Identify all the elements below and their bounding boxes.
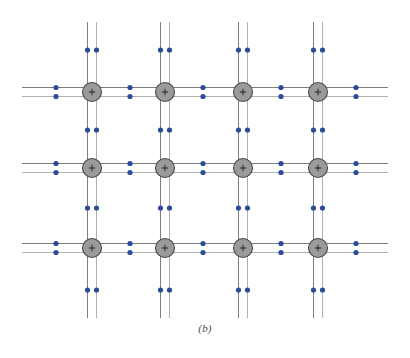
- electron-v-0-3-0: [85, 287, 90, 292]
- figure-caption: (b): [0, 322, 410, 334]
- electron-v-2-1-0: [236, 127, 241, 132]
- electron-h-0-2-0: [200, 85, 205, 90]
- ion-core-1-1: +: [156, 159, 175, 178]
- ion-core-1-0: +: [83, 159, 102, 178]
- electron-h-2-4-1: [353, 250, 358, 255]
- electron-h-1-0-0: [53, 161, 58, 166]
- electron-h-1-3-0: [278, 161, 283, 166]
- electron-h-0-2-1: [200, 94, 205, 99]
- electron-v-1-1-0: [158, 127, 163, 132]
- electron-h-1-3-1: [278, 170, 283, 175]
- electron-h-1-1-0: [127, 161, 132, 166]
- electron-v-3-0-1: [320, 47, 325, 52]
- electron-v-3-3-1: [320, 287, 325, 292]
- electron-h-2-0-1: [53, 250, 58, 255]
- electron-v-3-2-1: [320, 205, 325, 210]
- electron-h-1-4-1: [353, 170, 358, 175]
- electron-v-2-1-1: [245, 127, 250, 132]
- ion-cores-layer: ++++++++++++: [83, 83, 328, 258]
- electron-h-1-2-1: [200, 170, 205, 175]
- electron-h-0-1-1: [127, 94, 132, 99]
- ion-core-1-3: +: [309, 159, 328, 178]
- electron-h-1-1-1: [127, 170, 132, 175]
- electron-v-1-0-1: [167, 47, 172, 52]
- electron-h-0-1-0: [127, 85, 132, 90]
- electron-v-0-0-0: [85, 47, 90, 52]
- electron-h-0-0-0: [53, 85, 58, 90]
- electron-h-2-3-1: [278, 250, 283, 255]
- electron-h-2-3-0: [278, 241, 283, 246]
- electron-v-1-3-0: [158, 287, 163, 292]
- electron-v-3-1-0: [311, 127, 316, 132]
- lattice-figure: ++++++++++++ (b): [0, 0, 410, 358]
- electron-h-0-0-1: [53, 94, 58, 99]
- electron-v-3-1-1: [320, 127, 325, 132]
- electron-v-1-1-1: [167, 127, 172, 132]
- electron-v-0-1-0: [85, 127, 90, 132]
- electron-v-1-3-1: [167, 287, 172, 292]
- electron-h-0-3-1: [278, 94, 283, 99]
- ion-core-0-2: +: [234, 83, 253, 102]
- electron-h-2-2-0: [200, 241, 205, 246]
- ion-core-0-3: +: [309, 83, 328, 102]
- ion-core-2-0: +: [83, 239, 102, 258]
- electron-h-0-4-0: [353, 85, 358, 90]
- electron-h-1-0-1: [53, 170, 58, 175]
- electron-h-1-2-0: [200, 161, 205, 166]
- electron-v-0-2-1: [94, 205, 99, 210]
- electron-h-2-0-0: [53, 241, 58, 246]
- electron-v-3-3-0: [311, 287, 316, 292]
- electron-v-2-2-1: [245, 205, 250, 210]
- electron-v-2-2-0: [236, 205, 241, 210]
- electron-v-2-3-1: [245, 287, 250, 292]
- electron-v-1-2-0: [158, 205, 163, 210]
- electron-v-3-0-0: [311, 47, 316, 52]
- electron-v-0-1-1: [94, 127, 99, 132]
- ion-core-0-0: +: [83, 83, 102, 102]
- lattice-diagram-svg: ++++++++++++: [0, 0, 410, 358]
- electron-h-1-4-0: [353, 161, 358, 166]
- ion-core-2-2: +: [234, 239, 253, 258]
- lattice-rails-layer: [22, 22, 388, 318]
- electron-v-2-3-0: [236, 287, 241, 292]
- electron-v-1-0-0: [158, 47, 163, 52]
- electron-v-2-0-1: [245, 47, 250, 52]
- electron-v-3-2-0: [311, 205, 316, 210]
- ion-core-2-3: +: [309, 239, 328, 258]
- electron-h-0-3-0: [278, 85, 283, 90]
- electron-v-0-2-0: [85, 205, 90, 210]
- ion-core-2-1: +: [156, 239, 175, 258]
- electron-v-0-0-1: [94, 47, 99, 52]
- ion-core-0-1: +: [156, 83, 175, 102]
- electron-v-2-0-0: [236, 47, 241, 52]
- electron-h-2-2-1: [200, 250, 205, 255]
- electron-h-2-1-1: [127, 250, 132, 255]
- electron-h-2-4-0: [353, 241, 358, 246]
- electron-h-2-1-0: [127, 241, 132, 246]
- electron-v-0-3-1: [94, 287, 99, 292]
- ion-core-1-2: +: [234, 159, 253, 178]
- electron-h-0-4-1: [353, 94, 358, 99]
- electron-v-1-2-1: [167, 205, 172, 210]
